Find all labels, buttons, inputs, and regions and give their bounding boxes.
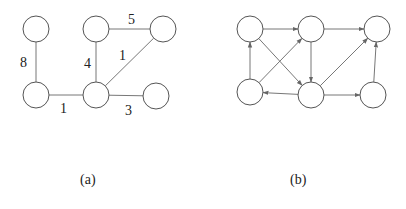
node-P	[237, 16, 263, 42]
edge-weight-label: 1	[60, 101, 67, 116]
node-S	[237, 79, 263, 105]
caption-a: (a)	[80, 172, 96, 188]
node-E	[83, 82, 109, 108]
edge-E-F	[109, 95, 143, 96]
edge-S-Q	[259, 38, 302, 82]
node-T	[298, 82, 324, 108]
node-D	[23, 82, 49, 108]
edge-E-C	[105, 38, 153, 86]
node-F	[143, 83, 169, 109]
node-A	[23, 16, 49, 42]
caption-b: (b)	[290, 172, 306, 188]
edge-T-R	[320, 38, 368, 86]
graph-b	[237, 16, 390, 108]
node-C	[150, 16, 176, 42]
edge-weight-label: 3	[125, 103, 132, 118]
graph-a: 814513	[20, 12, 176, 118]
node-R	[364, 16, 390, 42]
figure-canvas: 814513	[0, 0, 406, 209]
edge-weight-label: 8	[20, 55, 27, 70]
edge-weight-label: 5	[128, 12, 135, 27]
edge-weight-label: 4	[84, 56, 91, 71]
node-U	[360, 82, 386, 108]
edge-P-T	[259, 39, 302, 86]
edge-T-S	[263, 93, 298, 95]
edge-weight-label: 1	[119, 48, 126, 63]
node-Q	[298, 16, 324, 42]
node-B	[83, 16, 109, 42]
edge-U-R	[374, 42, 376, 82]
